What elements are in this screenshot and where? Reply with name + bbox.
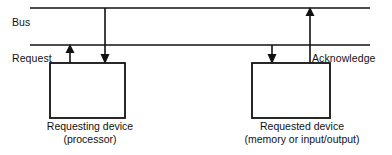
requested-device-caption: Requested device (memory or input/output…	[212, 120, 392, 146]
left-down-arrow	[101, 8, 110, 64]
requested-device-box	[252, 63, 330, 118]
bus-handshake-diagram: Bus Request Acknowledge Requesting devic…	[0, 0, 392, 155]
requesting-device-caption: Requesting device (processor)	[0, 120, 180, 146]
right-down-arrow	[268, 45, 277, 64]
request-up-arrow	[66, 44, 75, 63]
requesting-device-caption-line2: (processor)	[0, 133, 180, 146]
requested-device-caption-line2: (memory or input/output)	[212, 133, 392, 146]
requesting-device-caption-line1: Requesting device	[47, 120, 133, 132]
bus-label: Bus	[12, 16, 30, 28]
requesting-device-box	[50, 63, 125, 118]
requested-device-caption-line1: Requested device	[260, 120, 344, 132]
request-label: Request	[12, 52, 52, 64]
acknowledge-label: Acknowledge	[312, 52, 376, 64]
